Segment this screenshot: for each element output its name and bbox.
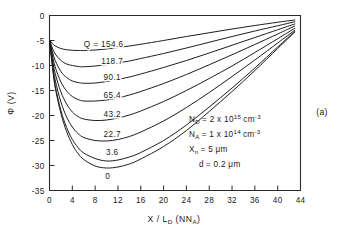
y-tick-label: -15: [32, 87, 45, 96]
x-axis-title-paren-close: ): [197, 214, 200, 224]
annotation-d: d= 0.2 μm: [199, 160, 241, 169]
svg-text:X / LD (NNA): X / LD (NNA): [148, 214, 201, 225]
x-tick-label: 24: [182, 196, 192, 205]
curve-label-65.4: 65.4: [103, 91, 121, 100]
x-axis-title-paren-open: (N: [173, 214, 186, 224]
panel-label-group: (a): [316, 107, 328, 117]
y-axis-title-phi: Φ: [6, 107, 16, 114]
y-tick-label: -30: [32, 162, 45, 171]
curve-Q-0: [50, 32, 295, 168]
curve-value-labels: Q = 154.6Q = 154.6118.7118.790.190.165.4…: [84, 40, 124, 181]
y-tick-label: -10: [32, 62, 45, 71]
x-axis-title-na: N: [186, 214, 193, 224]
panel-label: (a): [316, 107, 328, 117]
x-tick-label: 20: [159, 196, 169, 205]
parameter-annotations: ND= 2 x 1015cm-3 NA= 1 x 1014cm-3 Xn= 5 …: [189, 113, 261, 169]
y-tick-label: -25: [32, 137, 45, 146]
curve-label-22.7: 22.7: [103, 130, 121, 139]
curve-label-43.2: 43.2: [103, 110, 121, 119]
figure-container: 048121620242832364044 0-5-10-15-20-25-30…: [0, 0, 353, 245]
x-tick-label: 8: [93, 196, 98, 205]
x-tick-label: 28: [204, 196, 214, 205]
x-tick-label: 44: [296, 196, 306, 205]
y-tick-label: -35: [32, 187, 45, 196]
curve-label-3.6: 3.6: [106, 148, 119, 157]
annotation-na: NA= 1 x 1014cm-3: [189, 128, 261, 140]
curve-Q-90.1: [50, 24, 295, 83]
svg-text:Φ(V): Φ(V): [6, 91, 16, 114]
y-axis-tick-labels: 0-5-10-15-20-25-30-35: [32, 12, 45, 196]
curve-label-118.7: 118.7: [101, 57, 123, 66]
x-axis-title-main: X / L: [148, 214, 168, 224]
y-tick-label: 0: [40, 12, 45, 21]
x-tick-label: 32: [227, 196, 237, 205]
x-axis-ticks: [50, 186, 301, 191]
curve-label-0: 0: [105, 172, 110, 181]
curve-Q-65.4: [50, 26, 295, 101]
x-tick-label: 12: [113, 196, 123, 205]
y-tick-label: -20: [32, 112, 45, 121]
x-tick-label: 40: [273, 196, 283, 205]
curve-label-154.6: Q = 154.6: [84, 40, 124, 49]
y-axis-title: Φ(V): [6, 91, 16, 114]
x-axis-title: X / LD (NNA): [148, 214, 201, 225]
x-tick-label: 36: [250, 196, 260, 205]
annotation-xn: Xn= 5 μm: [189, 145, 228, 155]
x-tick-label: 4: [70, 196, 75, 205]
curve-label-90.1: 90.1: [103, 73, 121, 82]
potential-profile-chart: 048121620242832364044 0-5-10-15-20-25-30…: [0, 0, 353, 245]
y-tick-label: -5: [37, 37, 45, 46]
x-axis-tick-labels: 048121620242832364044: [47, 196, 305, 205]
x-tick-label: 0: [47, 196, 52, 205]
x-tick-label: 16: [136, 196, 146, 205]
y-axis-title-units: (V): [6, 91, 16, 104]
